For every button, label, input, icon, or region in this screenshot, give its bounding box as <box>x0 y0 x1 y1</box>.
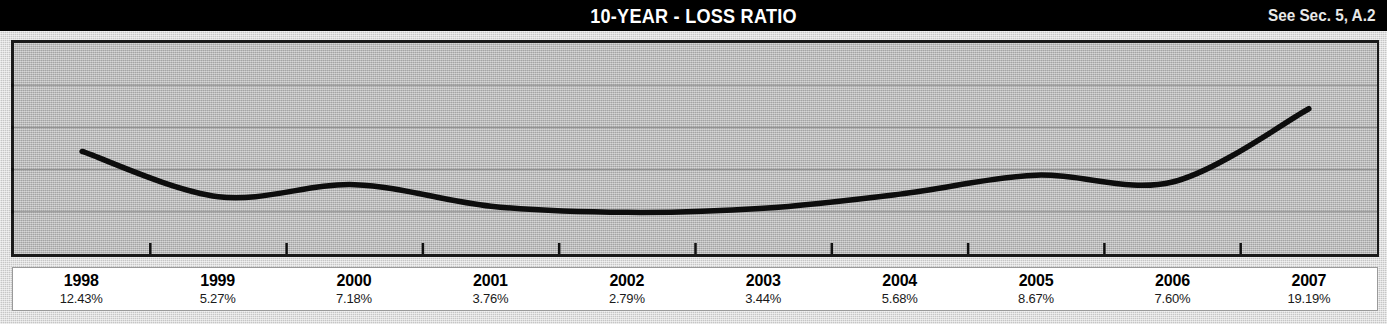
x-axis-label-cell: 20045.68% <box>831 268 967 310</box>
loss-ratio-chart-panel: 10-YEAR - LOSS RATIO See Sec. 5, A.2 199… <box>0 0 1387 324</box>
x-axis-label-cell: 19995.27% <box>149 268 285 310</box>
x-axis-year-label: 2006 <box>1155 273 1190 289</box>
x-axis-label-cell: 200719.19% <box>1241 268 1377 310</box>
x-axis-value-label: 3.76% <box>472 292 508 305</box>
x-axis-label-cell: 20067.60% <box>1104 268 1240 310</box>
x-axis-year-label: 2004 <box>882 273 917 289</box>
loss-ratio-line-chart <box>11 40 1379 257</box>
x-axis-label-cell: 199812.43% <box>13 268 149 310</box>
chart-header-bar: 10-YEAR - LOSS RATIO See Sec. 5, A.2 <box>0 0 1387 31</box>
loss-ratio-series-line <box>82 109 1309 213</box>
x-axis-value-label: 7.60% <box>1155 292 1191 305</box>
x-axis-year-label: 1998 <box>64 273 99 289</box>
x-axis-year-label: 1999 <box>200 273 235 289</box>
chart-x-axis-ticks <box>150 243 1240 254</box>
x-axis-year-label: 2003 <box>746 273 781 289</box>
x-axis-value-label: 3.44% <box>745 292 781 305</box>
x-axis-label-cell: 20022.79% <box>559 268 695 310</box>
x-axis-value-label: 8.67% <box>1018 292 1054 305</box>
x-axis-label-cell: 20058.67% <box>968 268 1104 310</box>
x-axis-label-cell: 20013.76% <box>422 268 558 310</box>
x-axis-value-label: 5.27% <box>200 292 236 305</box>
x-axis-year-label: 2005 <box>1019 273 1054 289</box>
chart-plot-area <box>11 40 1379 257</box>
x-axis-value-label: 19.19% <box>1287 292 1330 305</box>
x-axis-year-label: 2000 <box>337 273 372 289</box>
x-axis-label-cell: 20007.18% <box>286 268 422 310</box>
x-axis-value-label: 2.79% <box>609 292 645 305</box>
x-axis-year-label: 2007 <box>1291 273 1326 289</box>
x-axis-label-band: 199812.43%19995.27%20007.18%20013.76%200… <box>12 267 1378 311</box>
x-axis-value-label: 12.43% <box>60 292 103 305</box>
chart-y-axis-ticks <box>11 85 14 212</box>
x-axis-value-label: 5.68% <box>882 292 918 305</box>
x-axis-value-label: 7.18% <box>336 292 372 305</box>
chart-gridlines <box>14 85 1377 212</box>
page-title: 10-YEAR - LOSS RATIO <box>97 0 1290 31</box>
section-reference: See Sec. 5, A.2 <box>1268 0 1375 31</box>
x-axis-label-cell: 20033.44% <box>695 268 831 310</box>
x-axis-year-label: 2002 <box>609 273 644 289</box>
x-axis-year-label: 2001 <box>473 273 508 289</box>
